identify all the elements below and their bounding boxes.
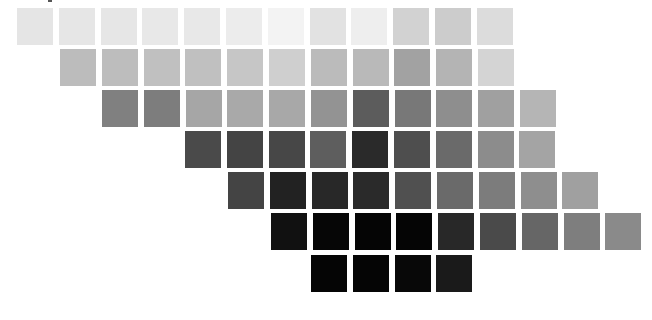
gray-swatch [311,90,347,127]
gray-swatch [355,213,391,250]
gray-swatch [520,90,556,127]
gray-swatch [480,213,516,250]
gray-swatch [59,8,95,45]
gray-swatch [521,172,557,209]
gray-swatch [310,8,346,45]
gray-swatch [395,172,431,209]
gray-swatch [270,172,306,209]
gray-swatch [269,90,305,127]
gray-swatch [353,172,389,209]
gray-swatch [478,49,514,86]
gray-swatch [227,131,263,168]
gray-swatch [227,90,263,127]
gray-swatch [353,90,389,127]
gray-swatch [437,172,473,209]
gray-swatch [353,49,389,86]
top-mark [48,0,52,2]
gray-swatch [269,49,305,86]
swatch-grid [0,0,652,320]
gray-swatch [269,131,305,168]
gray-swatch [227,49,263,86]
gray-swatch [438,213,474,250]
gray-swatch [479,172,515,209]
gray-swatch [102,90,138,127]
gray-swatch [185,131,221,168]
gray-swatch [478,131,514,168]
gray-swatch [185,49,221,86]
gray-swatch [313,213,349,250]
gray-swatch [226,8,262,45]
gray-swatch [144,90,180,127]
gray-swatch [436,90,472,127]
gray-swatch [184,8,220,45]
gray-swatch [396,213,432,250]
gray-swatch [271,213,307,250]
gray-swatch [395,255,431,292]
gray-swatch [477,8,513,45]
gray-swatch [311,255,347,292]
gray-swatch [142,8,178,45]
gray-swatch [60,49,96,86]
gray-swatch [436,131,472,168]
gray-swatch [101,8,137,45]
gray-swatch [228,172,264,209]
gray-swatch [519,131,555,168]
gray-swatch [395,90,431,127]
gray-swatch [564,213,600,250]
gray-swatch [351,8,387,45]
gray-swatch [435,8,471,45]
gray-swatch [352,131,388,168]
gray-swatch [436,49,472,86]
gray-swatch [268,8,304,45]
gray-swatch [436,255,472,292]
gray-swatch [353,255,389,292]
gray-swatch [17,8,53,45]
gray-swatch [394,49,430,86]
gray-swatch [311,49,347,86]
gray-swatch [312,172,348,209]
gray-swatch [186,90,222,127]
gray-swatch [102,49,138,86]
gray-swatch [393,8,429,45]
gray-swatch [394,131,430,168]
gray-swatch [562,172,598,209]
gray-swatch [478,90,514,127]
gray-swatch [144,49,180,86]
gray-swatch [605,213,641,250]
gray-swatch [310,131,346,168]
gray-swatch [522,213,558,250]
